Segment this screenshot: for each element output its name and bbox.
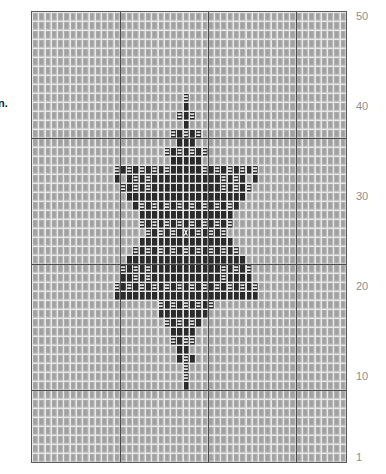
pattern-grid[interactable] [31,11,347,463]
cross-stitch-chart-page: n. 50403020101 [0,0,386,474]
row-label-50: 50 [356,10,368,22]
left-caption-text: n. [0,97,8,109]
row-label-10: 10 [356,370,368,382]
pattern-canvas[interactable] [32,12,346,462]
row-label-40: 40 [356,100,368,112]
row-label-30: 30 [356,190,368,202]
row-number-axis: 50403020101 [352,0,386,474]
row-label-20: 20 [356,280,368,292]
row-label-1: 1 [356,451,362,463]
